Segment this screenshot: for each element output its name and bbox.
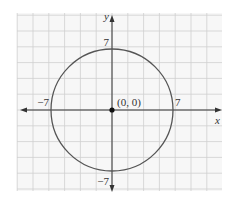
center-label: (0, 0) <box>117 96 141 109</box>
center-point <box>109 107 114 112</box>
intercept-label-y-neg: −7 <box>97 175 109 187</box>
intercept-label-y-pos: 7 <box>104 36 110 48</box>
x-axis-label: x <box>214 114 220 126</box>
y-axis-label: y <box>103 10 109 22</box>
circle-graph: (0, 0) x y −7 7 7 −7 <box>0 0 228 200</box>
intercept-label-x-pos: 7 <box>175 96 181 108</box>
intercept-label-x-neg: −7 <box>37 96 49 108</box>
